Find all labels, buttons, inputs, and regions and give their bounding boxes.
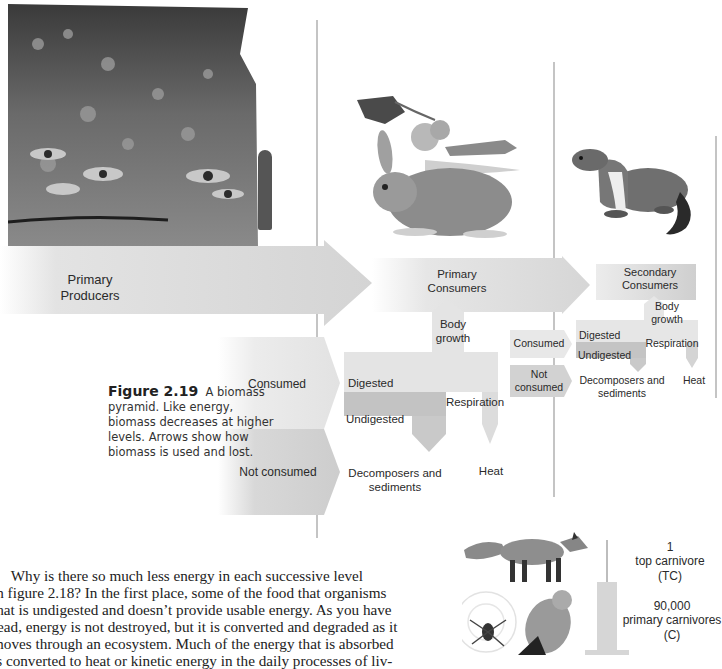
spider-and-kestrel-illustration (462, 586, 582, 655)
l3-heat-label: Heat (679, 374, 709, 387)
body-paragraph: Why is there so much less energy in each… (0, 567, 452, 669)
l2-digested-label: Digested (348, 377, 408, 391)
body-line: moves through an ecosystem. Much of the … (0, 635, 452, 652)
primary-carnivores-label: 90,000 primary carnivores (C) (620, 599, 722, 642)
top-carnivore-count: 1 (620, 540, 720, 554)
l2-heat-label: Heat (476, 465, 506, 479)
rabbit-butterfly-grasshopper-illustration (355, 92, 530, 242)
pyramid-top-bar (606, 540, 608, 582)
l3-undigested-label: Undigested (578, 349, 638, 362)
l2-respiration-label: Respiration (440, 396, 510, 410)
l3-respiration-label: Respiration (642, 337, 702, 350)
divider-line-level3 (715, 136, 717, 398)
l2-decomposers-label: Decomposers and sediments (340, 467, 450, 495)
body-line: that is undigested and doesn’t provide u… (0, 601, 452, 618)
body-line: read, energy is not destroyed, but it is… (0, 618, 452, 635)
l3-decomposers-label: Decomposers and sediments (574, 374, 670, 399)
pyramid-third-bar (585, 650, 629, 655)
secondary-consumers-label: Secondary Consumers (606, 266, 694, 292)
weasel-illustration (568, 132, 700, 240)
not-consumed-label: Not consumed (228, 465, 328, 479)
top-carnivore-label: 1 top carnivore (TC) (620, 540, 720, 583)
l3-not-consumed-label: Not consumed (512, 368, 566, 393)
l2-undigested-label: Undigested (346, 413, 416, 427)
body-line: is converted to heat or kinetic energy i… (0, 652, 452, 669)
pyramid-second-bar (597, 582, 617, 655)
l3-digested-label: Digested (579, 329, 629, 342)
l3-consumed-label: Consumed (512, 337, 566, 350)
figure-number: Figure 2.19 (108, 383, 198, 399)
primary-consumers-label: Primary Consumers (402, 268, 512, 296)
fox-illustration (462, 528, 590, 584)
body-line: Why is there so much less energy in each… (0, 567, 452, 584)
body-line: in figure 2.18? In the first place, some… (0, 584, 452, 601)
primary-carnivores-count: 90,000 (620, 599, 722, 613)
primary-producers-label: Primary Producers (40, 272, 140, 303)
flower-meadow-photo (8, 4, 260, 248)
lupine-spike (258, 150, 272, 230)
figure-caption: Figure 2.19 A biomass pyramid. Like ener… (108, 384, 278, 460)
l3-body-growth-label: Body growth (644, 300, 690, 325)
l2-body-growth-label: Body growth (428, 318, 478, 346)
